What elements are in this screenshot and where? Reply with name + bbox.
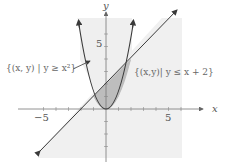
region-label-below-line: {(x,y)| y ≤ x + 2} (134, 68, 214, 77)
plot-canvas (0, 0, 234, 167)
inequality-region-diagram: y x −5 5 5 {(x, y) | y ≥ x²} {(x,y)| y ≤… (0, 0, 234, 167)
region-label-above-parabola: {(x, y) | y ≥ x²} (6, 64, 76, 73)
y-tick-label-5: 5 (96, 39, 102, 49)
y-axis-label: y (103, 1, 109, 11)
x-tick-label-5: 5 (165, 113, 171, 123)
x-axis-label: x (212, 104, 218, 114)
x-tick-label-neg5: −5 (34, 113, 49, 123)
